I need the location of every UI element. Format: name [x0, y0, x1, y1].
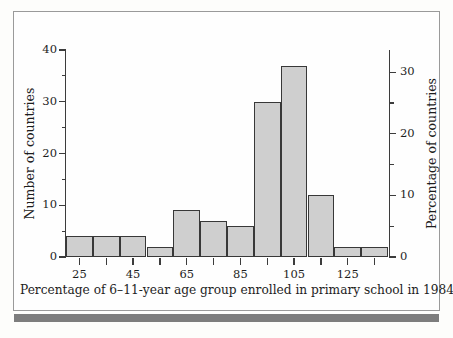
plot-area: 010203040010203025456585105125: [66, 50, 388, 257]
y-axis-left-tick-minor: [62, 231, 67, 232]
x-axis-ticklabel: 25: [49, 269, 109, 281]
x-axis-tick-minor: [374, 258, 375, 265]
histogram-bar: [254, 102, 281, 257]
y-axis-left-tick-minor: [62, 179, 67, 180]
histogram-bar: [147, 247, 174, 257]
x-axis-tick-minor: [320, 258, 321, 265]
y-axis-right-tick-major: [389, 133, 396, 134]
histogram-bar: [281, 66, 308, 257]
x-axis-ticklabel: 65: [157, 269, 217, 281]
y-axis-right-tick-major: [389, 256, 396, 257]
y-axis-left-tick-major: [59, 205, 66, 206]
y-axis-right-tick-minor: [389, 164, 394, 165]
x-axis-tick-minor: [106, 258, 107, 265]
histogram-bar: [227, 226, 254, 257]
histogram-bar: [120, 236, 147, 257]
x-axis-tick-major: [240, 258, 241, 265]
y-axis-left-tick-major: [59, 101, 66, 102]
y-axis-right-title: Percentage of countries: [424, 50, 440, 257]
x-axis-tick-minor: [213, 258, 214, 265]
histogram-bar: [308, 195, 335, 257]
y-axis-right-tick-minor: [389, 226, 394, 227]
y-axis-right-tick-major: [389, 195, 396, 196]
histogram-bar: [200, 221, 227, 257]
y-axis-right-line: [389, 50, 390, 258]
x-axis-ticklabel: 105: [264, 269, 324, 281]
x-axis-ticklabel: 85: [210, 269, 270, 281]
y-axis-left-tick-major: [59, 49, 66, 50]
histogram-bar: [334, 247, 361, 257]
y-axis-left-tick-major: [59, 256, 66, 257]
histogram-bar: [66, 236, 93, 257]
y-axis-right-tick-major: [389, 72, 396, 73]
y-axis-left-title: Number of countries: [22, 50, 38, 257]
x-axis-ticklabel: 125: [318, 269, 378, 281]
x-axis-tick-major: [186, 258, 187, 265]
x-axis-tick-minor: [159, 258, 160, 265]
y-axis-right-tick-minor: [389, 102, 394, 103]
x-axis-title: Percentage of 6–11-year age group enroll…: [20, 283, 420, 297]
x-axis-tick-major: [347, 258, 348, 265]
y-axis-left-tick-minor: [62, 75, 67, 76]
figure-canvas: 010203040010203025456585105125 Number of…: [0, 0, 453, 338]
x-axis-tick-major: [293, 258, 294, 265]
y-axis-left-tick-major: [59, 153, 66, 154]
bottom-rule: [14, 314, 439, 322]
histogram-bar: [361, 247, 388, 257]
y-axis-left-tick-minor: [62, 127, 67, 128]
x-axis-tick-minor: [267, 258, 268, 265]
x-axis-tick-major: [79, 258, 80, 265]
x-axis-ticklabel: 45: [103, 269, 163, 281]
x-axis-tick-major: [132, 258, 133, 265]
histogram-bar: [93, 236, 120, 257]
histogram-bar: [173, 210, 200, 257]
